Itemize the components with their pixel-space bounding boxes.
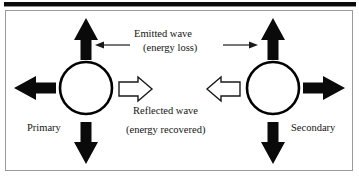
secondary-right-arrow-icon [303, 76, 345, 100]
primary-left-arrow-icon [14, 76, 56, 100]
emitted-wave-label-line2: (energy loss) [143, 42, 197, 53]
emitted-wave-label-line1: Emitted wave [134, 28, 192, 39]
primary-up-arrow-icon [74, 18, 98, 60]
reflected-right-arrow-icon [119, 77, 152, 101]
primary-down-arrow-icon [74, 122, 98, 164]
reflected-wave-label-line1: Reflected wave [133, 105, 198, 116]
secondary-node-label: Secondary [291, 122, 335, 133]
secondary-up-arrow-icon [261, 18, 285, 60]
emitted-right-arrow-icon [223, 41, 258, 48]
primary-node-label: Primary [27, 122, 61, 133]
figure-root: Emitted wave (energy loss) Reflected wav… [0, 0, 359, 184]
secondary-circle [247, 62, 299, 114]
primary-circle [60, 62, 112, 114]
reflected-wave-label-line2: (energy recovered) [126, 124, 205, 135]
emitted-left-arrow-icon [95, 41, 130, 48]
reflected-left-arrow-icon [207, 77, 240, 101]
secondary-down-arrow-icon [261, 122, 285, 164]
